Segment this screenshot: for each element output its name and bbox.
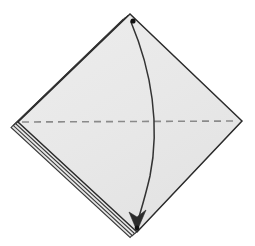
origami-diagram-canvas (0, 0, 255, 246)
end-point-dot (135, 226, 140, 231)
start-point-dot (130, 18, 135, 23)
origami-figure (0, 0, 255, 246)
